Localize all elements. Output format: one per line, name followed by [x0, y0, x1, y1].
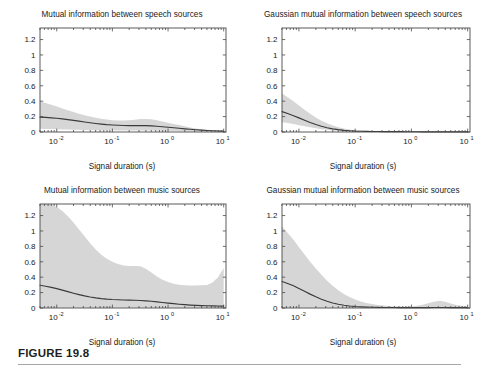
- y-tick-label: 1: [31, 51, 36, 60]
- svg-text:0: 0: [414, 135, 417, 141]
- svg-text:10: 10: [403, 137, 412, 146]
- y-tick-label: 0.8: [24, 66, 36, 75]
- x-tick-label: 101: [460, 135, 474, 146]
- y-tick-label: 1.2: [266, 35, 278, 44]
- svg-text:1: 1: [471, 135, 474, 141]
- x-axis-label: Signal duration (s): [4, 338, 240, 347]
- x-tick-label: 100: [160, 311, 174, 322]
- y-tick-label: 0.2: [24, 288, 36, 297]
- y-tick-label: 0: [31, 304, 36, 313]
- x-tick-label: 101: [460, 311, 474, 322]
- x-tick-label: 10-2: [291, 311, 306, 322]
- x-tick-label: 10-1: [347, 311, 362, 322]
- x-tick-label: 10-2: [49, 135, 64, 146]
- x-axis-label: Signal duration (s): [4, 162, 240, 171]
- y-tick-label: 0.6: [24, 82, 36, 91]
- svg-text:10: 10: [403, 313, 412, 322]
- svg-text:-1: -1: [114, 135, 119, 141]
- svg-text:10: 10: [160, 137, 169, 146]
- svg-text:10: 10: [291, 137, 300, 146]
- plot-svg: 00.20.40.60.811.210-210-1100101: [244, 10, 482, 162]
- svg-text:1: 1: [471, 311, 474, 317]
- svg-text:10: 10: [49, 137, 58, 146]
- y-tick-label: 0.2: [266, 112, 278, 121]
- y-tick-label: 1.2: [24, 35, 36, 44]
- y-tick-label: 1: [31, 227, 36, 236]
- svg-text:10: 10: [291, 313, 300, 322]
- svg-text:-2: -2: [301, 311, 306, 317]
- y-tick-label: 0.8: [24, 242, 36, 251]
- y-tick-label: 0.4: [266, 273, 278, 282]
- y-tick-label: 0.8: [266, 242, 278, 251]
- svg-text:10: 10: [347, 137, 356, 146]
- y-tick-label: 0.8: [266, 66, 278, 75]
- figure-caption: FIGURE 19.8: [18, 347, 89, 359]
- svg-text:10: 10: [49, 313, 58, 322]
- caption-divider: [18, 364, 461, 365]
- y-tick-label: 0.6: [266, 82, 278, 91]
- plot-svg: 00.20.40.60.811.210-210-1100101: [4, 186, 240, 338]
- chart-panel-music-mi: Mutual information between music sources…: [4, 186, 240, 354]
- svg-text:1: 1: [227, 311, 230, 317]
- x-tick-label: 100: [403, 311, 417, 322]
- x-tick-label: 101: [216, 311, 230, 322]
- x-tick-label: 100: [160, 135, 174, 146]
- svg-text:-1: -1: [357, 311, 362, 317]
- y-tick-label: 0.2: [24, 112, 36, 121]
- y-tick-label: 0.4: [24, 97, 36, 106]
- svg-text:10: 10: [104, 137, 113, 146]
- svg-text:10: 10: [216, 313, 225, 322]
- chart-panel-speech-gaussian-mi: Gaussian mutual information between spee…: [244, 10, 482, 178]
- x-tick-label: 10-1: [104, 135, 119, 146]
- figure-19-8: Mutual information between speech source…: [0, 0, 485, 372]
- y-tick-label: 1: [273, 227, 278, 236]
- svg-text:10: 10: [160, 313, 169, 322]
- chart-panel-music-gaussian-mi: Gaussian mutual information between musi…: [244, 186, 482, 354]
- y-tick-label: 1: [273, 51, 278, 60]
- x-axis-label: Signal duration (s): [244, 338, 482, 347]
- svg-text:0: 0: [171, 311, 174, 317]
- svg-text:10: 10: [460, 137, 469, 146]
- svg-text:-2: -2: [59, 135, 64, 141]
- svg-text:10: 10: [347, 313, 356, 322]
- x-tick-label: 10-2: [291, 135, 306, 146]
- chart-panel-speech-mi: Mutual information between speech source…: [4, 10, 240, 178]
- y-tick-label: 0.2: [266, 288, 278, 297]
- svg-text:-1: -1: [114, 311, 119, 317]
- y-tick-label: 0.4: [24, 273, 36, 282]
- plot-svg: 00.20.40.60.811.210-210-1100101: [244, 186, 482, 338]
- y-tick-label: 0.6: [24, 258, 36, 267]
- x-axis-label: Signal duration (s): [244, 162, 482, 171]
- y-tick-label: 0: [31, 128, 36, 137]
- svg-text:-2: -2: [301, 135, 306, 141]
- svg-text:0: 0: [414, 311, 417, 317]
- y-tick-label: 0.4: [266, 97, 278, 106]
- x-tick-label: 100: [403, 135, 417, 146]
- svg-text:10: 10: [104, 313, 113, 322]
- svg-text:10: 10: [460, 313, 469, 322]
- svg-text:1: 1: [227, 135, 230, 141]
- plot-svg: 00.20.40.60.811.210-210-1100101: [4, 10, 240, 162]
- y-tick-label: 1.2: [266, 211, 278, 220]
- svg-text:-2: -2: [59, 311, 64, 317]
- x-tick-label: 101: [216, 135, 230, 146]
- x-tick-label: 10-2: [49, 311, 64, 322]
- svg-text:10: 10: [216, 137, 225, 146]
- svg-text:-1: -1: [357, 135, 362, 141]
- y-tick-label: 0: [273, 304, 278, 313]
- y-tick-label: 1.2: [24, 211, 36, 220]
- y-tick-label: 0.6: [266, 258, 278, 267]
- svg-text:0: 0: [171, 135, 174, 141]
- y-tick-label: 0: [273, 128, 278, 137]
- x-tick-label: 10-1: [104, 311, 119, 322]
- x-tick-label: 10-1: [347, 135, 362, 146]
